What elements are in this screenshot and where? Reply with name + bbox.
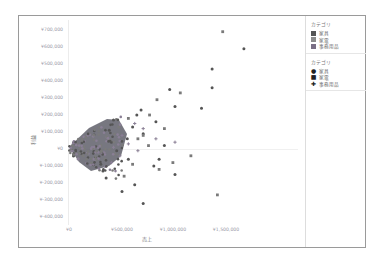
data-point[interactable]: [174, 105, 177, 108]
data-point[interactable]: [115, 177, 118, 180]
data-point[interactable]: [131, 125, 134, 128]
data-point[interactable]: [118, 136, 121, 139]
data-point[interactable]: [77, 158, 80, 161]
data-point[interactable]: [168, 88, 171, 91]
data-point[interactable]: [242, 47, 245, 50]
data-point[interactable]: [109, 168, 112, 171]
data-point[interactable]: [109, 124, 112, 127]
data-point[interactable]: [216, 194, 219, 197]
data-point[interactable]: [121, 190, 124, 193]
data-point[interactable]: [121, 144, 124, 147]
data-point[interactable]: [127, 158, 130, 161]
data-point[interactable]: [90, 147, 93, 150]
data-point[interactable]: [133, 183, 136, 186]
data-point[interactable]: [92, 152, 95, 155]
data-point[interactable]: [211, 68, 214, 71]
data-point[interactable]: [92, 134, 95, 137]
data-point[interactable]: [111, 135, 114, 138]
data-point[interactable]: [75, 150, 78, 153]
data-point[interactable]: [79, 147, 82, 150]
data-point[interactable]: [81, 154, 84, 157]
data-point[interactable]: [90, 161, 93, 164]
data-point[interactable]: [113, 133, 116, 136]
data-point[interactable]: [158, 168, 161, 171]
data-point[interactable]: [154, 120, 157, 123]
data-point[interactable]: [147, 144, 150, 147]
data-point[interactable]: [148, 114, 151, 117]
data-point[interactable]: [81, 142, 84, 145]
data-point[interactable]: [156, 98, 159, 101]
data-point[interactable]: [121, 147, 124, 150]
data-point[interactable]: [200, 107, 203, 110]
data-point[interactable]: [107, 137, 110, 140]
data-point[interactable]: [117, 163, 120, 166]
data-point[interactable]: [78, 152, 81, 155]
data-point[interactable]: [115, 149, 118, 152]
data-point[interactable]: [142, 134, 145, 137]
data-point[interactable]: [86, 162, 89, 165]
data-point[interactable]: [117, 119, 120, 122]
data-point[interactable]: [99, 163, 102, 166]
data-point[interactable]: [85, 136, 88, 139]
data-point[interactable]: [75, 153, 78, 156]
data-point[interactable]: [120, 169, 123, 172]
data-point[interactable]: [99, 161, 102, 164]
data-point[interactable]: [152, 165, 155, 168]
data-point[interactable]: [142, 127, 145, 130]
data-point[interactable]: [142, 202, 145, 205]
data-point[interactable]: [93, 139, 96, 142]
data-point[interactable]: [127, 117, 130, 120]
data-point[interactable]: [108, 148, 111, 151]
data-point[interactable]: [74, 141, 77, 144]
data-point[interactable]: [121, 140, 124, 143]
data-point[interactable]: [171, 161, 174, 164]
data-point[interactable]: [97, 147, 100, 150]
data-point[interactable]: [211, 86, 214, 89]
data-point[interactable]: [117, 158, 120, 161]
data-point[interactable]: [93, 146, 96, 149]
data-point[interactable]: [190, 154, 193, 157]
data-point[interactable]: [71, 144, 74, 147]
data-point[interactable]: [93, 129, 96, 132]
data-point[interactable]: [112, 119, 115, 122]
data-point[interactable]: [117, 174, 120, 177]
data-point[interactable]: [89, 164, 92, 167]
data-point[interactable]: [105, 176, 108, 179]
data-point[interactable]: [103, 131, 106, 134]
data-point[interactable]: [69, 146, 72, 149]
data-point[interactable]: [111, 169, 114, 172]
data-point[interactable]: [72, 142, 75, 145]
data-point[interactable]: [158, 158, 161, 161]
data-point[interactable]: [97, 133, 100, 136]
data-point[interactable]: [140, 108, 143, 111]
data-point[interactable]: [221, 30, 224, 33]
data-point[interactable]: [174, 173, 177, 176]
data-point[interactable]: [179, 92, 182, 95]
data-point[interactable]: [95, 150, 98, 153]
data-point[interactable]: [86, 153, 89, 156]
data-point[interactable]: [100, 126, 103, 129]
data-point[interactable]: [104, 148, 107, 151]
data-point[interactable]: [114, 170, 117, 173]
data-point[interactable]: [97, 130, 100, 133]
data-point[interactable]: [133, 122, 136, 125]
data-point[interactable]: [87, 150, 90, 153]
data-point[interactable]: [109, 132, 112, 135]
data-point[interactable]: [93, 161, 96, 164]
data-point[interactable]: [97, 167, 100, 170]
data-point[interactable]: [113, 141, 116, 144]
data-point[interactable]: [85, 158, 88, 161]
data-point[interactable]: [80, 145, 83, 148]
data-point[interactable]: [104, 153, 107, 156]
data-point[interactable]: [163, 144, 166, 147]
data-point[interactable]: [108, 129, 111, 132]
data-point[interactable]: [154, 137, 157, 140]
data-point[interactable]: [94, 155, 97, 158]
data-point[interactable]: [131, 163, 134, 166]
data-point[interactable]: [98, 126, 101, 129]
data-point[interactable]: [87, 133, 90, 136]
data-point[interactable]: [163, 127, 166, 130]
data-point[interactable]: [97, 157, 100, 160]
data-point[interactable]: [105, 165, 108, 168]
data-point[interactable]: [116, 133, 119, 136]
